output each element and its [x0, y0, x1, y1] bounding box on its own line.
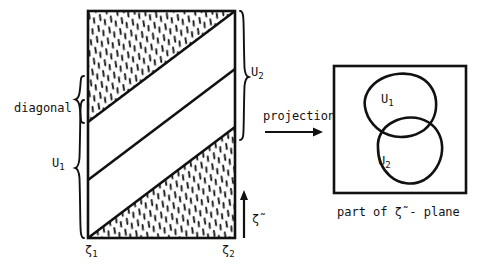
label-u2-blob: U2	[378, 155, 391, 170]
label-u1-strip-subscript: 1	[59, 162, 64, 172]
label-u1-strip: U1	[52, 157, 65, 172]
label-u2-strip: U2	[251, 66, 264, 81]
projection-arrow	[265, 128, 323, 137]
label-diagonal: diagonal	[14, 102, 72, 114]
label-u2-strip-subscript: 2	[258, 71, 263, 81]
label-zeta2-subscript: 2	[229, 249, 234, 259]
label-zeta1: ζ1	[85, 244, 98, 259]
label-u1-blob: U1	[381, 93, 394, 108]
label-projection: projection	[263, 110, 335, 122]
projection-square	[334, 66, 466, 193]
blob-u1	[365, 74, 436, 137]
strip-diagram	[76, 11, 249, 238]
label-plane-caption: part of ζ̃ - plane	[337, 206, 460, 218]
label-zeta1-subscript: 1	[92, 249, 97, 259]
label-zeta-tilde-axis: ζ̃	[252, 213, 259, 225]
blob-u2	[378, 118, 442, 184]
brace-u1	[76, 100, 85, 238]
label-u2-blob-subscript: 2	[385, 160, 390, 170]
figure-canvas	[0, 0, 493, 280]
zeta-tilde-axis-arrow	[240, 190, 248, 238]
label-zeta2: ζ2	[222, 244, 235, 259]
label-u1-blob-subscript: 1	[388, 98, 393, 108]
projection-plane-diagram	[334, 66, 466, 193]
brace-u2	[240, 11, 249, 140]
